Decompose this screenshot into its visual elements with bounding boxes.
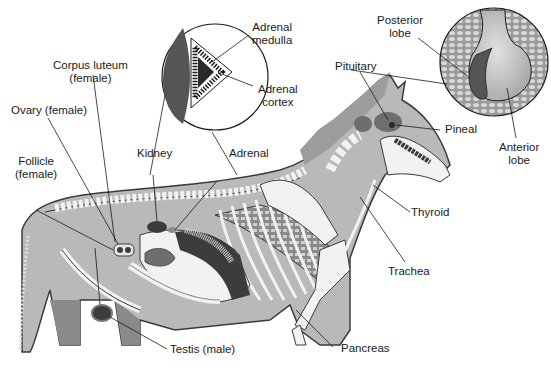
label-trachea: Trachea	[388, 265, 430, 278]
label-thyroid: Thyroid	[411, 206, 449, 219]
kidney-organ	[147, 221, 167, 233]
label-posterior-lobe: Posterior lobe	[377, 14, 423, 40]
label-adrenal-cortex: Adrenal cortex	[258, 83, 298, 109]
label-adrenal-medulla: Adrenal medulla	[252, 21, 292, 47]
label-anterior-lobe: Anterior lobe	[499, 141, 539, 167]
brain	[374, 112, 402, 132]
label-pineal: Pineal	[445, 123, 477, 136]
label-corpus-luteum: Corpus luteum (female)	[53, 59, 128, 85]
label-pituitary: Pituitary	[335, 60, 377, 73]
horse-endocrine-diagram	[0, 0, 551, 370]
cerebellum	[354, 116, 372, 132]
label-pancreas: Pancreas	[341, 342, 390, 355]
adrenal-organ	[168, 227, 176, 233]
label-follicle: Follicle (female)	[15, 155, 57, 181]
ovary-organ	[114, 244, 134, 256]
pituitary-inset	[440, 8, 548, 116]
pineal-gland	[389, 122, 395, 128]
label-ovary: Ovary (female)	[11, 104, 87, 117]
label-testis: Testis (male)	[170, 343, 235, 356]
label-kidney: Kidney	[137, 147, 172, 160]
label-adrenal: Adrenal	[229, 147, 269, 160]
testis-organ	[92, 305, 112, 321]
